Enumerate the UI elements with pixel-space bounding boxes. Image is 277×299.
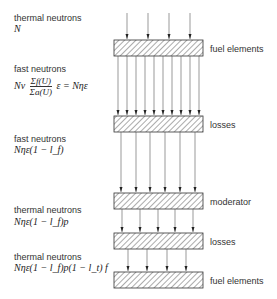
label-fuel-elements-2: fuel elements bbox=[210, 276, 264, 286]
arrows-into-fuel-elements-2 bbox=[127, 249, 188, 271]
fraction-denominator: Σa(U) bbox=[30, 87, 52, 97]
cross-section-fraction: Σf(U) Σa(U) bbox=[30, 76, 52, 97]
stage-title-thermal-neutrons-2: thermal neutrons bbox=[14, 205, 82, 215]
box-fuel-elements-2 bbox=[114, 272, 203, 288]
arrows-into-moderator bbox=[120, 132, 197, 192]
label-losses-2: losses bbox=[210, 237, 236, 247]
box-moderator bbox=[114, 193, 203, 209]
stage-formula-2: Nν Σf(U) Σa(U) ε = Nηε bbox=[14, 76, 88, 97]
label-moderator: moderator bbox=[210, 197, 251, 207]
stage-formula-5: Nηε(1 − l_f)p(1 − l_t) f bbox=[14, 262, 108, 273]
arrows-into-losses-1 bbox=[117, 56, 201, 115]
stage-title-thermal-neutrons-3: thermal neutrons bbox=[14, 252, 82, 262]
formula-suffix: ε = Nηε bbox=[56, 80, 87, 91]
box-fuel-elements-1 bbox=[114, 40, 203, 56]
arrows-into-fuel-elements-1 bbox=[126, 13, 192, 39]
stage-title-thermal-neutrons-1: thermal neutrons bbox=[14, 13, 82, 23]
stage-formula-4: Nηε(1 − l_f)p bbox=[14, 216, 69, 227]
box-losses-2 bbox=[114, 233, 203, 249]
stage-formula-3: Nηε(1 − l_f) bbox=[14, 144, 64, 155]
stage-formula-1: N bbox=[14, 23, 21, 34]
stage-title-fast-neutrons-2: fast neutrons bbox=[14, 134, 66, 144]
box-losses-1 bbox=[114, 116, 203, 132]
fraction-numerator: Σf(U) bbox=[30, 76, 52, 87]
stage-title-fast-neutrons-1: fast neutrons bbox=[14, 64, 66, 74]
label-fuel-elements-1: fuel elements bbox=[210, 44, 264, 54]
formula-prefix: Nν bbox=[14, 80, 25, 91]
label-losses-1: losses bbox=[210, 120, 236, 130]
arrows-into-losses-2 bbox=[121, 209, 195, 232]
